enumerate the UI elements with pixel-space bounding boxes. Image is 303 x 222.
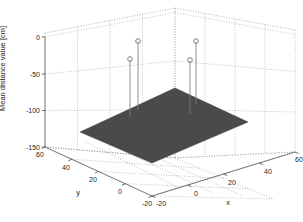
y-tick-label-40: 40 xyxy=(62,164,70,171)
mean-distance-surface xyxy=(80,88,248,163)
x-tick-label-60: 60 xyxy=(295,156,303,163)
matlab-3d-figure: 0 -50 -100 -150 60 40 20 0 -20 y xyxy=(0,0,303,222)
z-axis-title-container: Mean distance value [cm] xyxy=(0,0,18,222)
y-axis-title: y xyxy=(76,188,80,197)
z-tick-label-0: 0 xyxy=(36,34,40,41)
x-tick-label-0: 0 xyxy=(194,190,198,197)
x-tick-label-20: 20 xyxy=(228,179,236,186)
x-tick-label-minus20: -20 xyxy=(156,200,166,207)
z-axis-title: Mean distance value [cm] xyxy=(0,26,7,111)
y-tick-label-20: 20 xyxy=(89,176,97,183)
x-tick-label-40: 40 xyxy=(264,168,272,175)
z-axis: 0 -50 -100 -150 xyxy=(26,34,45,151)
y-tick-label-0: 0 xyxy=(118,188,122,195)
y-tick-label-minus20: -20 xyxy=(142,200,152,207)
z-tick-label-1: -50 xyxy=(30,71,40,78)
z-tick-label-3: -150 xyxy=(26,144,40,151)
x-axis-title: x xyxy=(226,198,230,207)
plot-canvas: 0 -50 -100 -150 60 40 20 0 -20 y xyxy=(0,0,303,222)
z-tick-label-2: -100 xyxy=(26,107,40,114)
y-tick-label-60: 60 xyxy=(36,151,44,158)
x-axis: -20 0 20 40 60 x xyxy=(152,152,303,207)
